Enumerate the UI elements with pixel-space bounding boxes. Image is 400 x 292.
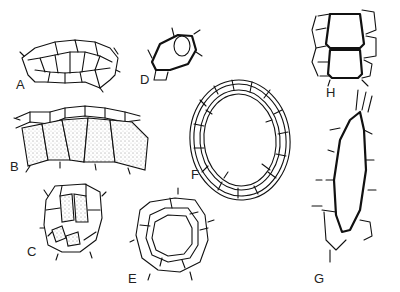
panel-b-drawing: [14, 106, 148, 174]
panel-g-drawing: [312, 90, 376, 262]
figure-drawing: [0, 0, 400, 292]
panel-d-drawing: [148, 28, 202, 80]
panel-f-label: F: [191, 168, 199, 181]
panel-b-label: B: [10, 160, 19, 173]
panel-f-drawing: [185, 76, 295, 204]
panel-a-label: A: [16, 78, 25, 91]
figure: A B C D E F G H: [0, 0, 400, 292]
panel-g-label: G: [314, 272, 324, 285]
panel-e-label: E: [128, 272, 137, 285]
panel-h-label: H: [326, 86, 335, 99]
panel-c-label: C: [27, 245, 36, 258]
panel-e-drawing: [130, 188, 214, 280]
panel-h-drawing: [312, 10, 376, 86]
panel-c-drawing: [40, 184, 106, 260]
panel-a-drawing: [20, 40, 120, 92]
panel-d-label: D: [140, 73, 149, 86]
